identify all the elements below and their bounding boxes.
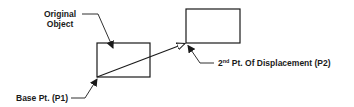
label-second-point-text: Pt. Of Displacement (P2) (229, 58, 330, 68)
label-original-line1: Original (40, 9, 80, 19)
leader-base-point (71, 79, 97, 98)
moved-object-rect (186, 9, 240, 43)
label-second-point: 2nd Pt. Of Displacement (P2) (218, 58, 331, 68)
label-base-point: Base Pt. (P1) (16, 93, 68, 103)
label-original-line2: Object (40, 19, 80, 29)
label-original-object: Original Object (40, 9, 80, 29)
displacement-arrow (97, 44, 185, 78)
leader-second-point (188, 46, 214, 64)
